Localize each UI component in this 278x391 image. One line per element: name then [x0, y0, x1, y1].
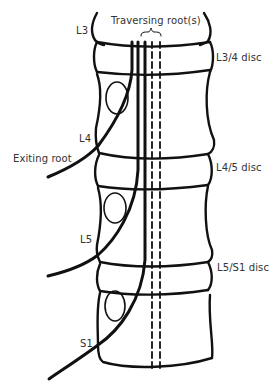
vertebra-label-l3: L3 [76, 25, 88, 36]
vertebra-label-l4: L4 [79, 133, 91, 144]
vertebra-l5-top-edge [98, 185, 208, 189]
vertebra-l4-bottom-edge [99, 153, 208, 158]
vertebra-l4-top-edge [97, 70, 210, 75]
disc-label-l45: L4/5 disc [216, 162, 262, 173]
disc-label-l34: L3/4 disc [216, 52, 262, 63]
vertebra-l5-bottom-edge [100, 262, 208, 267]
traversing-roots-label: Traversing root(s) [111, 15, 201, 26]
vertebra-label-s1: S1 [80, 338, 93, 349]
vertebra-l5-outline [97, 186, 213, 262]
vertebra-l3-bottom-edge [97, 42, 210, 47]
disc-label-l5s1: L5/S1 disc [217, 262, 269, 273]
exiting-root-label: Exiting root [13, 153, 72, 164]
pedicle-l5 [104, 193, 126, 223]
traversing-root-brace [141, 28, 161, 36]
pedicle-s1 [105, 291, 125, 321]
vertebra-label-l5: L5 [80, 234, 92, 245]
